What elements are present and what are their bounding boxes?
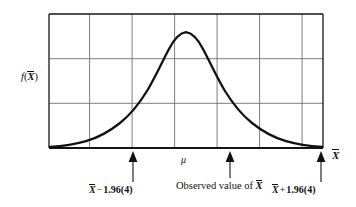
- upper-bound-value: 1.96(4): [286, 184, 315, 195]
- distribution-chart-svg: [0, 0, 356, 207]
- x-axis-label: X: [332, 150, 339, 161]
- arrow-lower-bound-head: [129, 151, 138, 162]
- arrow-upper-bound: [317, 151, 326, 182]
- arrow-upper-bound-head: [317, 151, 326, 162]
- arrow-lower-bound: [129, 151, 138, 182]
- y-axis-label-paren-close: ): [34, 71, 38, 82]
- y-axis-label: f(X): [21, 72, 38, 83]
- upper-bound-xbar: X: [272, 185, 279, 195]
- x-axis-label-xbar: X: [332, 150, 339, 161]
- upper-bound-label: X+1.96(4): [272, 185, 315, 195]
- lower-bound-xbar: X: [89, 185, 96, 195]
- lower-bound-value: 1.96(4): [103, 184, 132, 195]
- mu-symbol: μ: [181, 154, 186, 165]
- observed-value-xbar: X: [256, 181, 263, 192]
- lower-bound-label: X−1.96(4): [89, 185, 132, 195]
- plot-background: [49, 14, 323, 148]
- figure-container: f(X) X μ X−1.96(4) Observed value of X X…: [0, 0, 356, 207]
- arrow-observed-value-head: [226, 151, 235, 162]
- mu-label: μ: [181, 155, 186, 165]
- annotation-arrows: [129, 151, 326, 182]
- observed-value-text: Observed value of: [176, 180, 256, 191]
- y-axis-label-xbar: X: [27, 72, 34, 83]
- observed-value-label: Observed value of X: [176, 181, 263, 192]
- arrow-observed-value: [226, 151, 235, 178]
